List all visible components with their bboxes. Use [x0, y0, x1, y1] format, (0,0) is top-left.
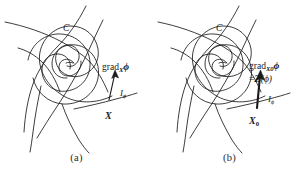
panel-b-caption: (b): [153, 152, 306, 163]
spiral-tail-center: [215, 104, 242, 153]
spiral-tail-left: [183, 86, 194, 152]
base-point-label: X: [105, 110, 112, 122]
field-line-subscript: ϕ: [271, 99, 274, 105]
base-point-subscript: 0: [256, 120, 259, 127]
curve-label-c: C: [216, 23, 222, 34]
spiral-nucleus: [66, 62, 73, 63]
gradient-operator: grad: [249, 61, 266, 71]
identity-argument: (ϕ): [261, 74, 272, 84]
transversal-curve-c: [158, 22, 243, 62]
level-curve-outer-1: [24, 6, 86, 132]
base-point-symbol: X: [249, 115, 256, 126]
figure-container: C gradXϕ Iϕ X (a): [0, 0, 306, 178]
panel-a: C gradXϕ Iϕ X (a): [0, 0, 153, 178]
gradient-identity-line: =Z(ϕ): [249, 73, 279, 85]
level-curve-outer-1: [177, 6, 239, 132]
base-point-symbol: X: [105, 110, 112, 121]
field-line-i-phi: [74, 93, 137, 109]
field-line-label: Iϕ: [268, 94, 274, 106]
base-point-label: X0: [249, 115, 259, 127]
panel-a-caption: (a): [0, 152, 153, 163]
spiral-tail-center: [62, 104, 89, 153]
curve-label-c: C: [63, 23, 69, 34]
transversal-curve-c: [5, 22, 90, 62]
field-line-subscript: ϕ: [123, 93, 126, 99]
gradient-label: gradXϕ: [102, 61, 129, 74]
gradient-argument-phi: ϕ: [274, 60, 280, 71]
gradient-label: gradX0ϕ =Z(ϕ): [249, 60, 279, 85]
gradient-arrow: [109, 70, 119, 100]
field-line-label: Iϕ: [120, 88, 126, 100]
gradient-argument-phi: ϕ: [123, 61, 129, 72]
panel-b: C gradX0ϕ =Z(ϕ) Iϕ X0 (b): [153, 0, 306, 178]
spiral-nucleus: [219, 62, 226, 63]
gradient-operator: grad: [102, 62, 119, 72]
spiral-tail-left: [30, 86, 41, 152]
